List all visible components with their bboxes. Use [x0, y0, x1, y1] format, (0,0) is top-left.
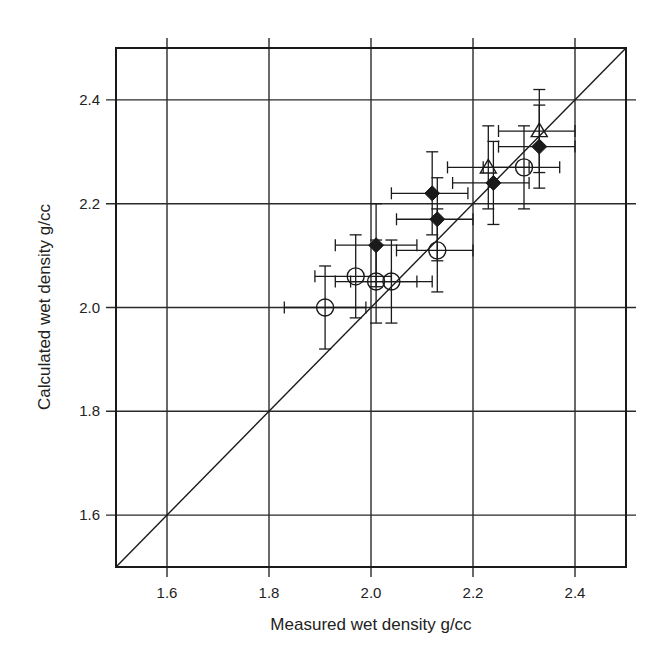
error-bar: [448, 126, 530, 209]
x-tick-label: 1.8: [259, 584, 280, 601]
x-tick-label: 2.4: [565, 584, 586, 601]
y-axis-ticks: 1.61.82.02.22.4: [79, 91, 100, 523]
scatter-chart: 1.61.82.02.22.4 1.61.82.02.22.4 Measured…: [0, 0, 664, 664]
x-tick-label: 1.6: [157, 584, 178, 601]
x-axis-label: Measured wet density g/cc: [270, 615, 472, 634]
y-tick-label: 1.8: [79, 402, 100, 419]
x-axis-ticks: 1.61.82.02.22.4: [157, 584, 586, 601]
y-tick-label: 1.6: [79, 506, 100, 523]
y-tick-label: 2.0: [79, 299, 100, 316]
x-tick-label: 2.2: [463, 584, 484, 601]
x-tick-label: 2.0: [361, 584, 382, 601]
y-tick-label: 2.4: [79, 91, 100, 108]
y-tick-label: 2.2: [79, 195, 100, 212]
error-bar: [499, 90, 576, 173]
error-bar: [284, 266, 366, 349]
y-axis-label: Calculated wet density g/cc: [35, 204, 54, 410]
